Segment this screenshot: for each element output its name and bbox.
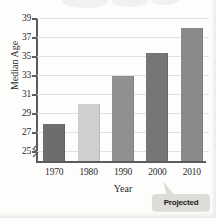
scan-edge-shadow — [211, 0, 216, 218]
y-axis-tick-label: 29 — [22, 108, 31, 118]
y-axis-tick — [32, 113, 37, 115]
y-axis-tick — [32, 75, 37, 77]
x-axis-tick-label: 2000 — [148, 167, 166, 177]
bar-fill — [112, 76, 134, 161]
y-axis-tick — [32, 151, 37, 153]
x-axis-tick-label: 1980 — [79, 167, 97, 177]
bar — [78, 104, 100, 161]
scan-edge-shadow — [0, 212, 216, 218]
y-axis-tick-label: 33 — [22, 70, 31, 80]
y-axis-tick — [32, 18, 37, 20]
chart-figure: Median Age 2527293133353739 197019801990… — [0, 0, 216, 218]
bar — [181, 28, 203, 161]
bar — [43, 124, 65, 161]
y-axis-tick — [32, 37, 37, 39]
projected-callout: Projected — [152, 194, 210, 211]
bar-fill — [181, 28, 203, 161]
x-axis-tick-label: 1990 — [114, 167, 132, 177]
y-axis-tick-label: 35 — [22, 51, 31, 61]
y-axis-tick-label: 39 — [22, 13, 31, 23]
x-axis-tick-label: 1970 — [45, 167, 63, 177]
scan-artifact — [112, 0, 148, 7]
y-axis-tick-label: 37 — [22, 32, 31, 42]
bar-fill — [146, 53, 168, 161]
x-axis-label: Year — [37, 183, 209, 194]
bar-fill — [78, 104, 100, 161]
y-axis-tick — [32, 94, 37, 96]
scan-artifact — [62, 0, 108, 8]
bar — [146, 53, 168, 161]
bar-fill — [43, 124, 65, 161]
y-axis-tick-label: 27 — [22, 127, 31, 137]
y-axis-tick — [32, 132, 37, 134]
projected-callout-label: Projected — [152, 194, 210, 211]
scan-artifact — [150, 0, 180, 5]
x-axis-tick-label: 2010 — [183, 167, 201, 177]
plot-area: 2527293133353739 19701980199020002010 — [37, 18, 209, 161]
y-axis-tick-label: 31 — [22, 89, 31, 99]
bar — [112, 76, 134, 161]
y-axis-tick — [32, 56, 37, 58]
gridline — [37, 18, 209, 19]
y-axis-line — [36, 18, 38, 161]
y-axis-tick-label: 25 — [22, 146, 31, 156]
y-axis-label: Median Age — [9, 16, 20, 116]
x-axis-line — [36, 161, 206, 163]
